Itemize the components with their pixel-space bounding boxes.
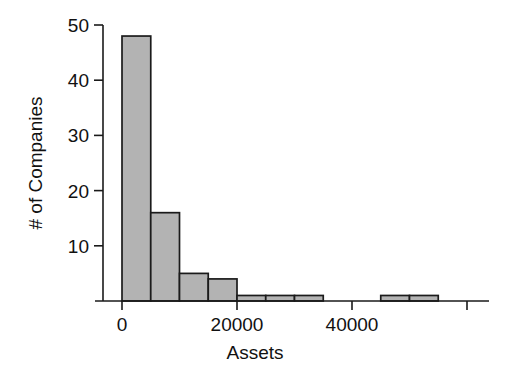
x-axis-tick-label: 40000: [326, 314, 379, 335]
histogram-bar: [381, 295, 410, 301]
y-axis-tick-label: 50: [68, 15, 89, 36]
x-axis-tick-label: 0: [117, 314, 128, 335]
histogram-chart: 1020304050 02000040000 Assets # of Compa…: [0, 0, 513, 376]
histogram-bar: [151, 213, 180, 301]
x-axis-tick-label: 20000: [211, 314, 264, 335]
y-axis-tick-label: 10: [68, 236, 89, 257]
x-axis-title: Assets: [226, 342, 283, 363]
y-axis-tick-label: 40: [68, 70, 89, 91]
histogram-bar: [237, 295, 266, 301]
histogram-bar: [295, 295, 324, 301]
histogram-bar: [410, 295, 439, 301]
chart-canvas: 1020304050 02000040000 Assets # of Compa…: [0, 0, 513, 376]
histogram-bar: [122, 36, 151, 301]
y-axis-tick-label: 30: [68, 125, 89, 146]
y-axis-tick-label: 20: [68, 181, 89, 202]
histogram-bar: [208, 279, 237, 301]
histogram-bar: [180, 273, 209, 301]
y-axis-title: # of Companies: [25, 96, 46, 229]
histogram-bar: [266, 295, 295, 301]
